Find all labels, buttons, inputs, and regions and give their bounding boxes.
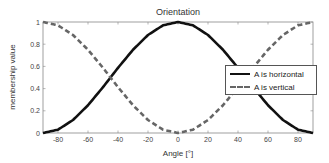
y-tick-label: 0 [36,130,40,137]
y-tick-label: 1 [36,19,40,26]
x-tick-label: 80 [294,136,302,143]
x-tick-label: -60 [83,136,93,143]
x-tick-label: 40 [234,136,242,143]
legend-label: A is vertical [254,83,294,92]
legend-item-horizontal: A is horizontal [230,68,304,80]
y-tick-label: 0.2 [30,107,40,114]
legend-label: A is horizontal [254,70,304,79]
x-tick-label: -40 [113,136,123,143]
chart-title: Orientation [43,7,313,17]
y-tick-label: 0.6 [30,63,40,70]
x-tick-label: -20 [143,136,153,143]
x-tick-label: 60 [264,136,272,143]
y-tick-label: 0.4 [30,85,40,92]
chart-legend: A is horizontal A is vertical [225,65,317,95]
x-tick-label: -80 [53,136,63,143]
x-axis-label: Angle [°] [43,149,313,158]
x-tick-label: 20 [204,136,212,143]
dashed-line-icon [230,86,250,88]
y-tick-label: 0.8 [30,41,40,48]
y-axis-label: membership value [8,44,17,109]
legend-item-vertical: A is vertical [230,81,294,93]
solid-line-icon [230,73,250,75]
x-tick-label: 0 [176,136,180,143]
